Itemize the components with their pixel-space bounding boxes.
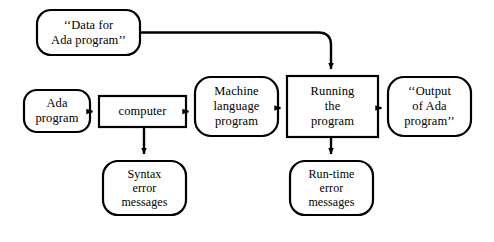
- node-machine-language-program: [195, 77, 278, 136]
- node-syntax-error-messages: [103, 161, 186, 215]
- edge-data-to-running: [140, 33, 331, 70]
- node-output-of-ada-program: [388, 77, 471, 136]
- node-running-the-program: [287, 76, 378, 137]
- node-ada-program: [24, 90, 90, 132]
- node-run-time-error-messages: [290, 161, 373, 215]
- node-computer: [99, 96, 186, 127]
- diagram-canvas: [0, 0, 494, 242]
- node-data-for-ada-program: [37, 10, 140, 55]
- flowchart-diagram: ‘‘Data for Ada program’’ Ada program com…: [0, 0, 494, 242]
